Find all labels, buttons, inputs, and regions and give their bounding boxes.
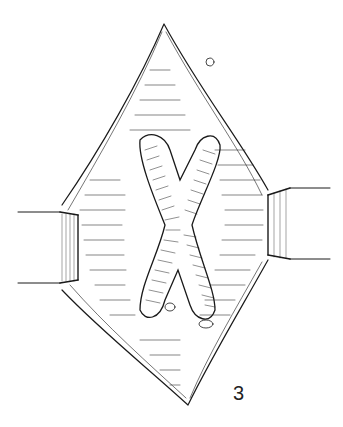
left-retractor — [18, 212, 78, 283]
surgical-drawing — [0, 0, 343, 427]
right-retractor — [268, 188, 330, 259]
figure-number: 3 — [233, 382, 244, 405]
x-structure-shading — [145, 146, 215, 307]
tissue-hatching — [80, 70, 263, 385]
incision-outline — [62, 24, 268, 405]
